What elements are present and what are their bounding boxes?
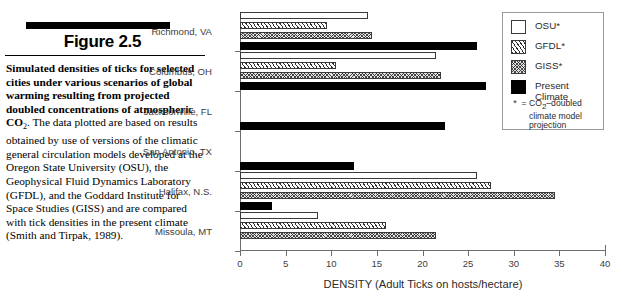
legend-footnote-text: CO2–doubled climate model projection	[529, 99, 582, 131]
bar-halifax-osu	[240, 172, 477, 179]
bar-san-antonio-present	[240, 162, 354, 170]
x-axis-tick-label: 35	[546, 258, 572, 269]
legend-label-gfdl: GFDL*	[535, 40, 565, 51]
bar-halifax-present	[240, 202, 272, 210]
bar-jacksonville-present	[240, 122, 445, 130]
x-axis-tick-label: 40	[592, 258, 618, 269]
x-axis-tick	[377, 251, 378, 256]
tick-density-bar-chart: Richmond, VA Columbus, OH Jacksonville, …	[214, 0, 624, 302]
x-axis-tick	[240, 245, 241, 256]
x-axis-title: DENSITY (Adult Ticks on hosts/hectare)	[240, 278, 606, 290]
city-label-san-antonio: San Antonio, TX	[92, 146, 212, 157]
legend-swatch-gfdl-icon	[511, 40, 526, 54]
x-axis-tick-label: 20	[410, 258, 436, 269]
bar-columbus-osu	[240, 52, 436, 59]
x-axis-tick-label: 25	[455, 258, 481, 269]
x-axis-tick-label: 10	[318, 258, 344, 269]
legend-item-gfdl: GFDL*	[511, 40, 565, 54]
x-axis-tick	[286, 251, 287, 256]
x-axis-tick-label: 5	[273, 258, 299, 269]
bar-richmond-gfdl	[240, 22, 327, 29]
legend-footnote: * = CO2–doubled climate model projection	[511, 99, 582, 131]
legend-footnote-star-icon: *	[511, 99, 519, 109]
x-axis-tick	[423, 251, 424, 256]
legend-footnote-equals: =	[519, 99, 529, 109]
city-label-jacksonville: Jacksonville, FL	[92, 106, 212, 117]
bar-richmond-giss	[240, 32, 372, 39]
bar-missoula-gfdl	[240, 222, 386, 229]
legend-item-giss: GISS*	[511, 60, 562, 74]
legend-swatch-present-climate-icon	[511, 80, 526, 94]
legend-item-osu: OSU*	[511, 20, 560, 34]
x-axis-tick-label: 30	[501, 258, 527, 269]
y-axis-category-labels: Richmond, VA Columbus, OH Jacksonville, …	[94, 12, 212, 250]
city-label-richmond: Richmond, VA	[92, 26, 212, 37]
legend-label-giss: GISS*	[535, 60, 562, 71]
bar-richmond-osu	[240, 12, 368, 19]
x-axis-tick	[331, 251, 332, 256]
bar-halifax-giss	[240, 192, 555, 199]
legend-footnote-co: CO	[529, 98, 542, 108]
x-axis-tick	[559, 251, 560, 256]
legend-label-osu: OSU*	[535, 20, 560, 31]
bar-richmond-present	[240, 42, 477, 50]
x-axis-tick-label: 15	[364, 258, 390, 269]
bar-columbus-gfdl	[240, 62, 336, 69]
x-axis-tick	[605, 245, 606, 256]
bar-columbus-present	[240, 82, 486, 90]
bar-halifax-gfdl	[240, 182, 491, 189]
x-axis-tick	[514, 251, 515, 256]
x-axis-tick-label: 0	[227, 258, 253, 269]
bar-missoula-osu	[240, 212, 318, 219]
chart-legend: OSU* GFDL* GISS* Present Climate * = CO2…	[502, 12, 604, 130]
legend-swatch-giss-icon	[511, 60, 526, 74]
bar-columbus-giss	[240, 72, 441, 79]
x-axis-tick	[468, 251, 469, 256]
city-label-missoula: Missoula, MT	[92, 226, 212, 237]
bar-missoula-giss	[240, 232, 436, 239]
city-label-halifax: Halifax, N.S.	[92, 186, 212, 197]
city-label-columbus: Columbus, OH	[92, 66, 212, 77]
legend-swatch-osu-icon	[511, 20, 526, 34]
